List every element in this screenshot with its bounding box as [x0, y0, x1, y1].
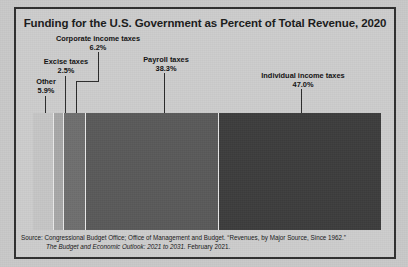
callout-payroll-taxes-label: Payroll taxes	[143, 55, 189, 64]
callout-individual-income-taxes-label: Individual income taxes	[261, 71, 344, 80]
callout-excise-taxes-label: Excise taxes	[44, 57, 88, 66]
leader-line-payroll-taxes	[164, 73, 165, 115]
callout-payroll-taxes-value: 38.3%	[128, 64, 204, 73]
source-note-line-2: The Budget and Economic Outlook: 2021 to…	[21, 243, 394, 252]
callout-individual-income-taxes-value: 47.0%	[238, 80, 368, 89]
callout-payroll-taxes: Payroll taxes 38.3%	[128, 55, 204, 73]
bar-segment-individual-income-taxes[interactable]	[219, 113, 381, 230]
leader-line-corporate-income-taxes-lower	[76, 81, 77, 115]
callout-corporate-income-taxes-label: Corporate income taxes	[56, 34, 140, 43]
source-note-date: February 2021.	[186, 243, 230, 250]
callout-excise-taxes: Excise taxes 2.5%	[30, 57, 102, 75]
callout-corporate-income-taxes: Corporate income taxes 6.2%	[36, 34, 160, 52]
bar-segment-payroll-taxes[interactable]	[86, 113, 219, 230]
leader-line-excise-taxes	[65, 76, 66, 115]
source-note-line-1: Source: Congressional Budget Office; Off…	[21, 234, 346, 241]
callout-other: Other 5.9%	[22, 77, 70, 95]
stacked-bar	[33, 113, 381, 230]
bar-segment-excise-taxes[interactable]	[54, 113, 64, 230]
leader-line-corporate-income-taxes-elbow	[76, 81, 99, 82]
callout-corporate-income-taxes-value: 6.2%	[36, 43, 160, 52]
leader-line-corporate-income-taxes-upper	[98, 52, 99, 82]
callout-individual-income-taxes: Individual income taxes 47.0%	[238, 71, 368, 89]
chart-title: Funding for the U.S. Government as Perce…	[16, 17, 394, 29]
bar-segment-corporate-income-taxes[interactable]	[64, 113, 86, 230]
chart-figure: Funding for the U.S. Government as Perce…	[0, 0, 408, 267]
callout-excise-taxes-value: 2.5%	[30, 66, 102, 75]
source-note-publication: The Budget and Economic Outlook: 2021 to…	[46, 243, 186, 250]
callout-other-label: Other	[36, 77, 56, 86]
callout-other-value: 5.9%	[22, 86, 70, 95]
source-note: Source: Congressional Budget Office; Off…	[21, 234, 394, 251]
bar-segment-other[interactable]	[33, 113, 54, 230]
leader-line-individual-income-taxes	[301, 89, 302, 115]
